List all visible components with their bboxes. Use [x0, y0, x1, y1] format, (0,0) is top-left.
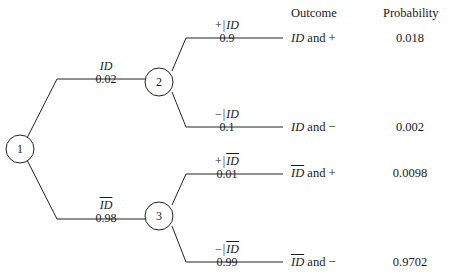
event-text-overlined: ID: [226, 154, 239, 168]
probability-row-3: 0.0098: [370, 166, 450, 180]
probability-tree-diagram: 1 2 3 Outcome Probability ID 0.02 ID 0.9…: [0, 0, 457, 277]
node-label-2: 2: [146, 76, 172, 88]
outcome-event: ID: [291, 120, 304, 134]
event-text: ID: [226, 18, 239, 32]
branch-label-id: ID 0.02: [78, 60, 134, 86]
branch-label-pos-given-id: +|ID 0.9: [196, 19, 258, 45]
branch-prob-id-complement: 0.98: [78, 212, 134, 225]
outcome-row-1: ID and +: [291, 31, 336, 45]
outcome-event: ID: [291, 31, 304, 45]
column-header-probability: Probability: [383, 7, 439, 20]
outcome-sign: −: [329, 120, 336, 134]
outcome-row-3: ID and +: [291, 166, 336, 180]
outcome-row-4: ID and −: [291, 255, 336, 269]
outcome-event-overlined: ID: [291, 166, 304, 180]
probability-row-4: 0.9702: [370, 255, 450, 269]
branch-prob-pos-given-id: 0.9: [196, 32, 258, 45]
sign-text: +: [215, 154, 222, 168]
probability-row-2: 0.002: [370, 120, 450, 134]
outcome-conjunction: and: [304, 31, 328, 45]
branch-label-id-complement: ID 0.98: [78, 199, 134, 225]
outcome-conjunction: and: [304, 255, 328, 269]
branch-line-root-upper: [27, 79, 145, 138]
outcome-row-2: ID and −: [291, 120, 336, 134]
sign-text: −: [215, 107, 222, 121]
outcome-event-overlined: ID: [291, 255, 304, 269]
branch-prob-pos-given-id-complement: 0.01: [196, 168, 258, 181]
event-text-overlined: ID: [100, 198, 113, 212]
branch-label-neg-given-id: −|ID 0.1: [196, 108, 258, 134]
node-label-1: 1: [7, 143, 33, 155]
outcome-sign: +: [329, 166, 336, 180]
event-text: ID: [100, 59, 113, 73]
outcome-conjunction: and: [304, 166, 328, 180]
outcome-conjunction: and: [304, 120, 328, 134]
sign-text: −: [215, 242, 222, 256]
branch-label-pos-given-id-complement: +|ID 0.01: [196, 155, 258, 181]
outcome-sign: +: [329, 31, 336, 45]
column-header-outcome: Outcome: [291, 7, 337, 20]
event-text-overlined: ID: [226, 242, 239, 256]
outcome-sign: −: [329, 255, 336, 269]
node-label-3: 3: [146, 210, 172, 222]
branch-prob-neg-given-id: 0.1: [196, 121, 258, 134]
event-text: ID: [226, 107, 239, 121]
probability-row-1: 0.018: [370, 31, 450, 45]
branch-label-neg-given-id-complement: −|ID 0.99: [196, 243, 258, 269]
sign-text: +: [215, 18, 222, 32]
branch-prob-id: 0.02: [78, 73, 134, 86]
branch-prob-neg-given-id-complement: 0.99: [196, 256, 258, 269]
